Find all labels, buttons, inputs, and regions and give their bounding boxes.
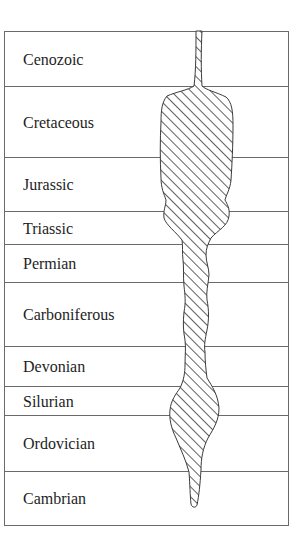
period-label-carboniferous: Carboniferous <box>23 306 115 323</box>
period-label-triassic: Triassic <box>23 220 73 237</box>
period-label-cambrian: Cambrian <box>23 490 86 507</box>
diversity-spindle-shape <box>160 31 233 507</box>
period-label-devonian: Devonian <box>23 358 85 375</box>
geologic-spindle-diagram: CenozoicCretaceousJurassicTriassicPermia… <box>0 0 293 539</box>
period-label-cenozoic: Cenozoic <box>23 51 83 68</box>
period-label-silurian: Silurian <box>23 393 74 410</box>
period-labels: CenozoicCretaceousJurassicTriassicPermia… <box>23 51 115 508</box>
period-label-cretaceous: Cretaceous <box>23 114 94 131</box>
period-label-ordovician: Ordovician <box>23 435 95 452</box>
period-rows <box>4 87 288 472</box>
period-label-permian: Permian <box>23 255 76 272</box>
period-label-jurassic: Jurassic <box>23 176 74 193</box>
